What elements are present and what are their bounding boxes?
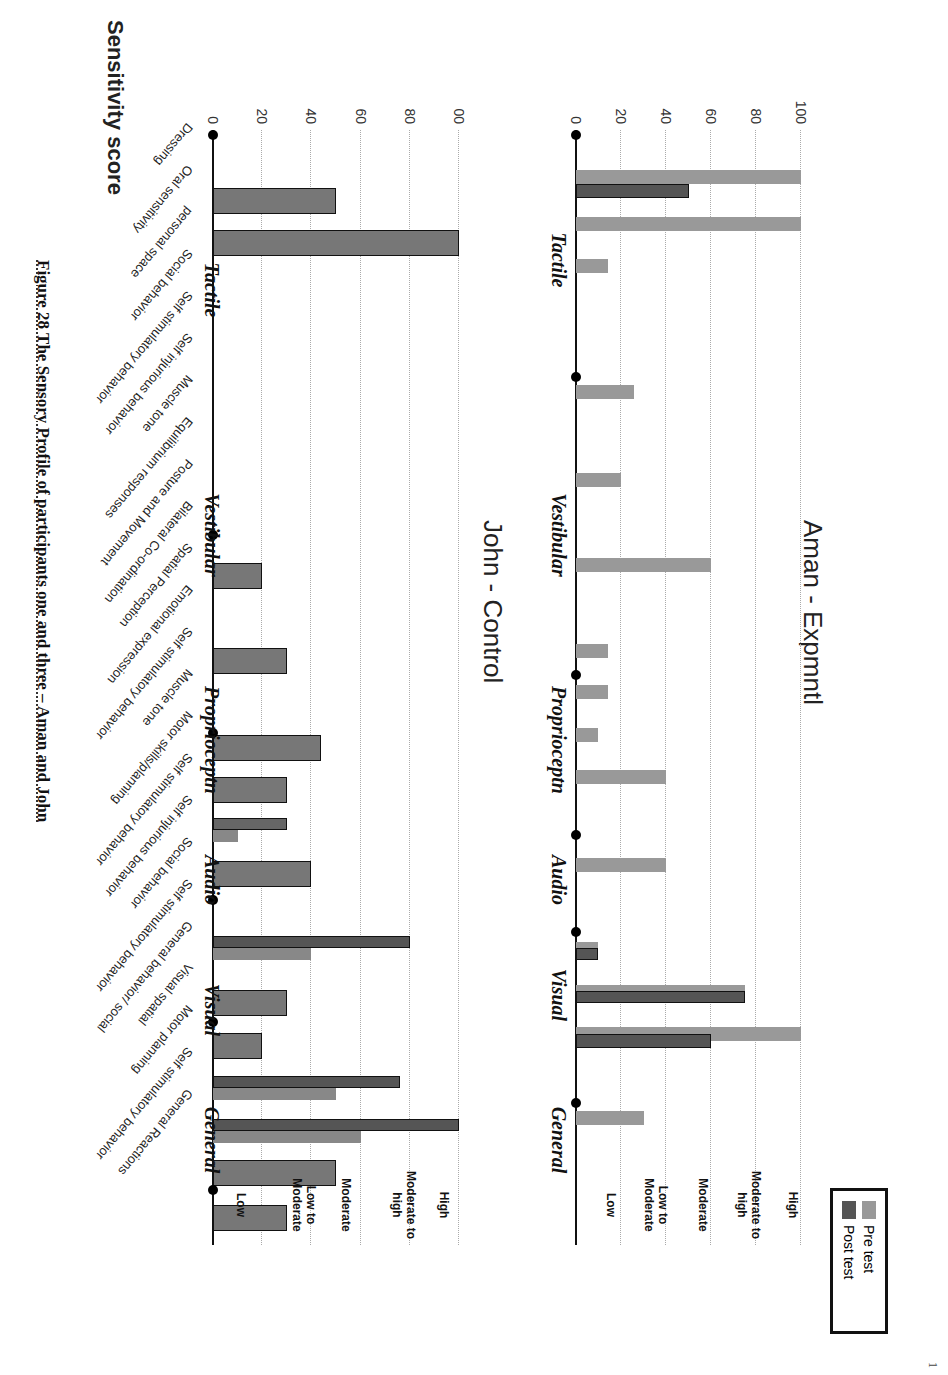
legend-swatch-post [842,1201,856,1219]
bar-pre [576,558,711,572]
gridline [409,130,410,1245]
y-tick: 40 [658,84,674,124]
group-label-general: General [200,1107,223,1174]
group-separator-dot [208,1185,218,1195]
gridline [620,130,621,1245]
bar-pre [576,685,608,699]
group-label-visual: Visual [547,969,570,1021]
bar-pre [213,830,238,842]
figure-page: 1 Pre test Post test Sensitivity score A… [0,0,948,1375]
bar-post [576,991,745,1003]
bar-pre [576,170,801,184]
group-label-general: General [547,1107,570,1174]
y-tick: 60 [703,84,719,124]
y-tick: 0 [568,84,584,124]
y-tick: 100 [793,84,809,124]
group-separator-dot [571,670,581,680]
aman-plot-area [576,130,801,1245]
gridline [755,130,756,1245]
bar-post [576,948,598,960]
bar-visual-spatial [213,1033,262,1059]
legend-item-pre: Pre test [859,1201,879,1321]
group-label-visual: Visual [200,984,223,1036]
bar-pre [576,1111,644,1125]
bar-muscle-tone [213,735,321,761]
john-plot-area [213,130,459,1245]
bar-post [213,936,410,948]
y-tick: 80 [402,84,418,124]
y-tick: 00 [451,84,467,124]
figure-caption: Figure 28 The Sensory Profile of partici… [33,260,53,822]
bar-self-injurious [213,861,311,887]
y-tick: 80 [748,84,764,124]
group-label-proprioception: Proprioceptn [547,686,570,794]
bar-motor-skills [213,777,287,803]
bar-general-reactions [213,1205,287,1231]
legend-label-pre: Pre test [859,1225,879,1273]
bar-emotional-expression [213,648,287,674]
group-label-vestibular: Vestibular [200,493,223,576]
bar-personal-space [213,230,459,256]
bar-pre [576,728,598,742]
group-separator-dot [571,830,581,840]
bar-pre [576,385,634,399]
gridline [458,130,459,1245]
bar-post [213,818,287,830]
level-label: High [786,1165,800,1245]
y-tick: 20 [613,84,629,124]
legend-label-post: Post test [839,1225,859,1279]
group-separator-dot [208,130,218,140]
bar-pre [213,1088,336,1100]
group-separator-dot [571,927,581,937]
aman-chart-title: Aman - Expmntl [797,520,828,705]
bar-post [213,1119,459,1131]
level-label: Low to Moderate [642,1165,670,1245]
group-label-audio: Audio [200,855,223,905]
gridline [710,130,711,1245]
bar-pre [576,473,621,487]
y-tick: 60 [353,84,369,124]
john-chart-title: John - Control [477,520,508,683]
legend: Pre test Post test [830,1188,888,1334]
level-label: Moderate [696,1165,710,1245]
bar-pre [576,644,608,658]
bar-post [213,1076,400,1088]
level-label: Low to Moderate [290,1165,318,1245]
bar-post [576,1034,711,1048]
group-label-proprioception: Proprioceptn [200,686,223,794]
level-label: Moderate [339,1165,353,1245]
level-label: Moderate to high [390,1165,418,1245]
group-separator-dot [571,1098,581,1108]
level-label: Low [234,1165,248,1245]
group-separator-dot [571,130,581,140]
legend-swatch-pre [862,1201,876,1219]
bar-pre [576,858,666,872]
page-number: 1 [925,1362,940,1368]
legend-item-post: Post test [839,1201,859,1321]
group-separator-dot [571,372,581,382]
gridline [800,130,801,1245]
bar-pre [213,1131,361,1143]
group-label-tactile: Tactile [547,233,570,288]
bar-pre [576,259,608,273]
bar-oral-sensitivity [213,188,336,214]
level-label: Moderate to high [735,1165,763,1245]
bar-pre [213,948,311,960]
group-label-tactile: Tactile [200,263,223,318]
y-tick: 40 [303,84,319,124]
bar-pre [576,770,666,784]
y-tick: 20 [254,84,270,124]
category-label: Dressing [152,120,196,169]
gridline [665,130,666,1245]
group-label-vestibular: Vestibular [547,493,570,576]
bar-general-behavior-social [213,990,287,1016]
bar-post [576,184,689,198]
level-label: Low [604,1165,618,1245]
bar-pre [576,217,801,231]
level-label: High [437,1165,451,1245]
y-axis-label: Sensitivity score [102,20,128,195]
group-label-audio: Audio [547,855,570,905]
y-tick: 0 [205,84,221,124]
